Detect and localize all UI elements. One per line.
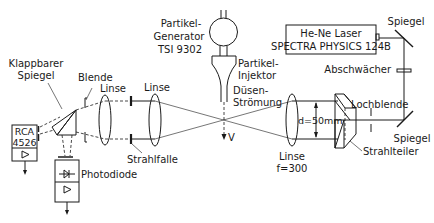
arrow-down-icon: [314, 132, 318, 138]
arrow-down-icon: [65, 210, 69, 215]
label-flip-mirror-1: Klappbarer: [9, 58, 65, 69]
photodiode-box: [55, 160, 79, 202]
label-nozzle-flow-1: Düsen-: [233, 85, 269, 96]
label-particle-injector-2: Injektor: [238, 70, 277, 81]
label-particle-generator-3: TSI 9302: [157, 44, 202, 55]
triangle-amplifier-icon: [64, 186, 71, 193]
flip-mirror-leader: [48, 83, 62, 109]
arrow-down-icon: [23, 170, 27, 175]
label-velocity: V: [228, 132, 235, 143]
label-lens-focal-1: Linse: [279, 151, 305, 162]
label-particle-generator-2: Generator: [154, 31, 206, 42]
label-attenuator: Abschwächer: [324, 64, 392, 75]
label-beam-trap: Strahlfalle: [127, 154, 178, 165]
label-laser-2: SPECTRA PHYSICS 124B: [271, 41, 391, 52]
aperture-lower: [85, 132, 87, 142]
label-mirror-bottom: Spiegel: [394, 133, 431, 144]
label-photodiode: Photodiode: [81, 169, 137, 180]
label-aperture: Blende: [78, 72, 113, 83]
label-particle-generator-1: Partikel-: [161, 18, 202, 29]
lens-middle: [149, 94, 161, 146]
arrow-down-icon: [222, 134, 227, 140]
diode-symbol-icon: [59, 170, 75, 178]
laser-aperture: [376, 34, 379, 40]
label-nozzle-flow-2: Strömung: [233, 97, 282, 108]
arrow-up-icon: [314, 102, 318, 108]
beam-splitter-leader: [350, 141, 362, 151]
label-beam-splitter: Strahlteiler: [363, 146, 419, 157]
label-pinhole: Lochblende: [351, 99, 408, 110]
label-pmt-2: 4526: [12, 137, 36, 148]
beam-trap-leader: [132, 144, 142, 153]
to-pmt-lower: [40, 130, 54, 134]
to-photodiode-left: [62, 135, 65, 156]
label-laser-1: He-Ne Laser: [300, 28, 362, 39]
triangle-amplifier-icon: [22, 151, 29, 158]
flip-mirror: [52, 110, 76, 135]
collect-upper: [76, 101, 105, 110]
label-beam-distance: d=50mm: [298, 115, 343, 126]
aperture-leader: [86, 88, 92, 100]
label-pmt-1: RCA: [15, 126, 35, 137]
label-flip-mirror-2: Spiegel: [18, 70, 55, 81]
label-lens-left: Linse: [100, 83, 126, 94]
mirror-bottom: [397, 111, 413, 127]
to-pmt-upper: [40, 117, 60, 127]
particle-generator: [210, 10, 238, 56]
optical-setup-diagram: Partikel- Generator TSI 9302 Partikel- I…: [0, 0, 434, 223]
to-photodiode-right: [70, 135, 72, 156]
label-lens-middle: Linse: [144, 82, 170, 93]
lens-focal: [286, 94, 298, 146]
label-lens-focal-2: f=300: [277, 163, 308, 174]
label-mirror-top: Spiegel: [388, 16, 425, 27]
label-particle-injector-1: Partikel-: [238, 58, 279, 69]
